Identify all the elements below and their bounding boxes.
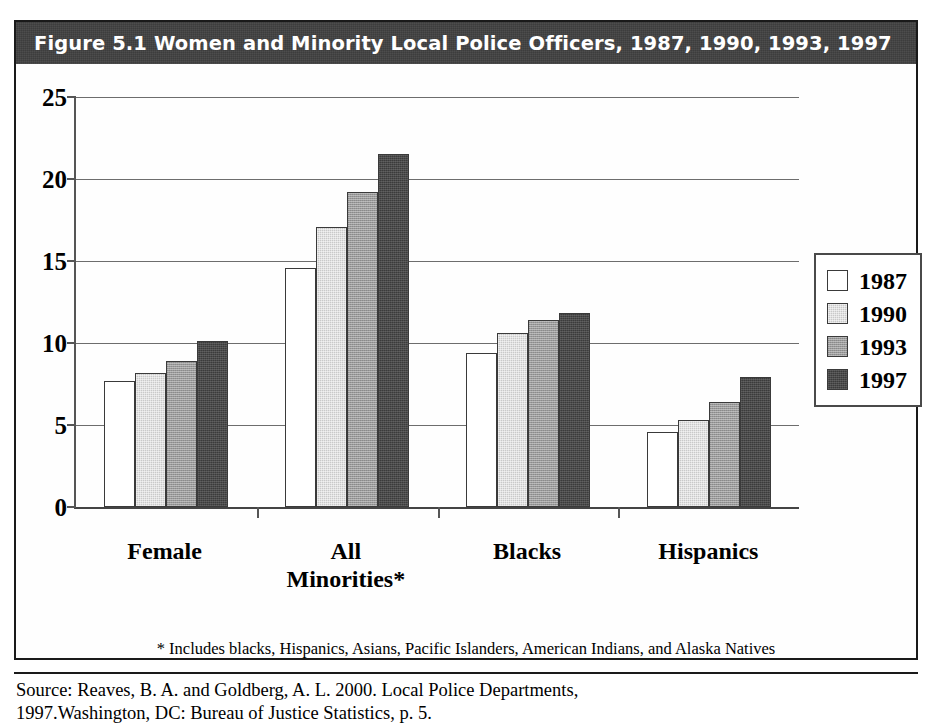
source-line-1: Source: Reaves, B. A. and Goldberg, A. L…: [16, 680, 578, 700]
source-citation: Source: Reaves, B. A. and Goldberg, A. L…: [16, 679, 916, 726]
bar: [316, 227, 347, 507]
y-tick-label: 15: [42, 249, 67, 274]
legend-swatch-icon: [827, 270, 848, 291]
chart-footnote: * Includes blacks, Hispanics, Asians, Pa…: [16, 639, 916, 659]
bar-groups: [76, 97, 799, 507]
legend-label: 1997: [859, 368, 907, 392]
bar-group: [257, 97, 438, 507]
figure-container: Figure 5.1 Women and Minority Local Poli…: [0, 0, 935, 726]
bar: [285, 268, 316, 507]
chart-legend: 1987199019931997: [814, 253, 922, 407]
x-axis-label: AllMinorities*: [255, 538, 436, 594]
y-tick-mark: [67, 260, 76, 262]
y-tick-label: 20: [42, 167, 67, 192]
bar-group: [618, 97, 799, 507]
x-axis-label: Female: [74, 538, 255, 594]
bar-group: [438, 97, 619, 507]
y-tick-mark: [67, 96, 76, 98]
bar: [497, 333, 528, 507]
x-axis-labels: FemaleAllMinorities*BlacksHispanics: [74, 538, 799, 594]
legend-label: 1990: [859, 302, 907, 326]
y-tick-label: 10: [42, 331, 67, 356]
legend-item: 1987: [827, 264, 907, 297]
bar: [166, 361, 197, 507]
bar: [466, 353, 497, 507]
bar: [378, 154, 409, 507]
bar: [135, 373, 166, 507]
bar: [347, 192, 378, 507]
figure-title-bar: Figure 5.1 Women and Minority Local Poli…: [16, 22, 916, 64]
y-tick-mark: [67, 178, 76, 180]
x-axis-label: Hispanics: [618, 538, 799, 594]
legend-item: 1993: [827, 330, 907, 363]
legend-item: 1997: [827, 363, 907, 396]
legend-swatch-icon: [827, 336, 848, 357]
bar: [709, 402, 740, 507]
bar: [197, 341, 228, 507]
source-divider: [14, 672, 918, 674]
bar-group: [76, 97, 257, 507]
legend-label: 1987: [859, 269, 907, 293]
bar: [559, 313, 590, 507]
legend-item: 1990: [827, 297, 907, 330]
bar: [104, 381, 135, 507]
y-tick-label: 25: [42, 85, 67, 110]
y-tick-label: 0: [55, 495, 68, 520]
chart-body: 0510152025 FemaleAllMinorities*BlacksHis…: [16, 64, 916, 658]
y-tick-mark: [67, 342, 76, 344]
bar: [647, 432, 678, 507]
plot-area: 0510152025: [74, 97, 799, 509]
legend-label: 1993: [859, 335, 907, 359]
bar: [678, 420, 709, 507]
x-axis-label: Blacks: [437, 538, 618, 594]
source-line-2: 1997.Washington, DC: Bureau of Justice S…: [16, 702, 916, 725]
bar: [528, 320, 559, 507]
y-tick-label: 5: [55, 413, 68, 438]
figure-frame: Figure 5.1 Women and Minority Local Poli…: [14, 20, 918, 660]
y-tick-mark: [67, 506, 76, 508]
bar: [740, 377, 771, 507]
y-tick-mark: [67, 424, 76, 426]
legend-swatch-icon: [827, 369, 848, 390]
page-title: Figure 5.1 Women and Minority Local Poli…: [16, 32, 892, 55]
legend-swatch-icon: [827, 303, 848, 324]
